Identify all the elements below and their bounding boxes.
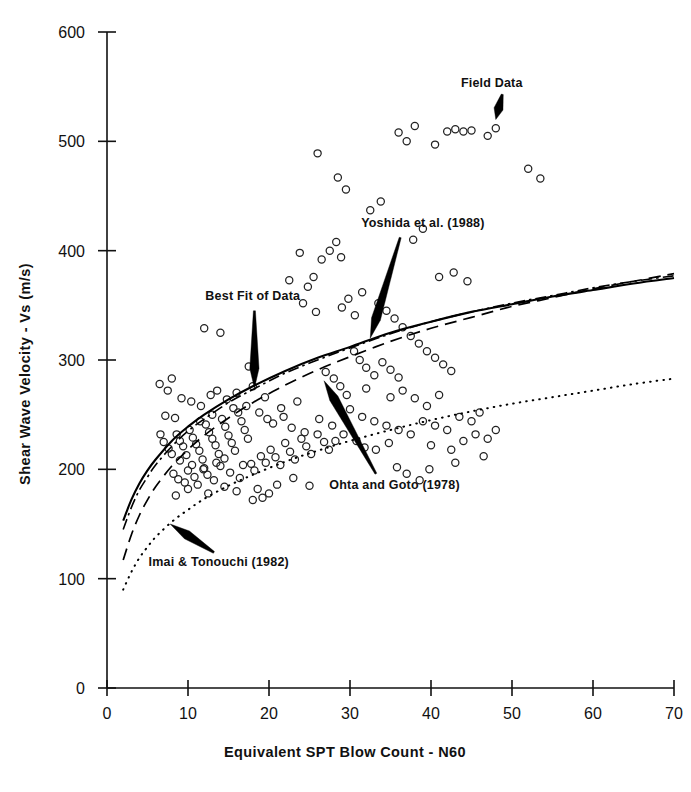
x-tick-label-0: 0 xyxy=(103,705,112,722)
annotation-label-best-fit: Best Fit of Data xyxy=(205,289,301,303)
y-tick-label-600: 600 xyxy=(58,24,85,41)
x-tick-label-10: 10 xyxy=(179,705,197,722)
y-tick-label-400: 400 xyxy=(58,243,85,260)
annotation-label-yoshida: Yoshida et al. (1988) xyxy=(361,216,484,230)
x-tick-label-70: 70 xyxy=(665,705,683,722)
y-axis-title: Shear Wave Velocity - Vs (m/s) xyxy=(17,263,33,485)
x-tick-label-20: 20 xyxy=(260,705,278,722)
figure-container: 0102030405060700100200300400500600 Field… xyxy=(0,0,691,792)
y-tick-label-100: 100 xyxy=(58,571,85,588)
x-tick-label-60: 60 xyxy=(584,705,602,722)
y-tick-label-200: 200 xyxy=(58,461,85,478)
x-tick-label-30: 30 xyxy=(341,705,359,722)
y-tick-label-300: 300 xyxy=(58,352,85,369)
x-tick-label-40: 40 xyxy=(422,705,440,722)
annotation-label-imai-tonouchi: Imai & Tonouchi (1982) xyxy=(149,555,289,569)
y-tick-label-500: 500 xyxy=(58,133,85,150)
x-axis-title: Equivalent SPT Blow Count - N60 xyxy=(224,744,466,760)
x-tick-label-50: 50 xyxy=(503,705,521,722)
shear-wave-velocity-scatter-chart: 0102030405060700100200300400500600 Field… xyxy=(0,0,691,792)
y-tick-label-0: 0 xyxy=(76,680,85,697)
annotation-label-field-data: Field Data xyxy=(461,76,524,90)
annotation-label-ohta-goto: Ohta and Goto (1978) xyxy=(329,478,459,492)
chart-background xyxy=(0,0,691,792)
